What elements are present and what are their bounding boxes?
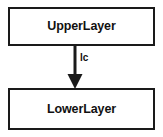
edge-upper-to-lower-arrowhead-icon [68,74,83,89]
edge-upper-to-lower-label: lc [80,53,88,63]
node-upper-layer-label: UpperLayer [47,20,115,33]
diagram-canvas: UpperLayer lc LowerLayer [0,0,163,137]
node-lower-layer[interactable]: LowerLayer [8,88,155,130]
node-upper-layer[interactable]: UpperLayer [8,7,155,46]
node-lower-layer-label: LowerLayer [47,103,116,116]
